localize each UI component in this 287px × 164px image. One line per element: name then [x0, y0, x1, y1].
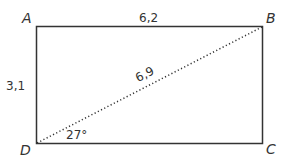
angle-d-label: 27° — [66, 129, 87, 141]
vertex-d-label: D — [20, 143, 31, 157]
vertex-c-label: C — [266, 142, 276, 156]
side-ad-length: 3,1 — [6, 80, 25, 92]
side-ab-length: 6,2 — [139, 12, 158, 24]
vertex-b-label: B — [266, 11, 276, 25]
vertex-a-label: A — [22, 11, 32, 25]
diagonal-bd — [37, 27, 262, 143]
